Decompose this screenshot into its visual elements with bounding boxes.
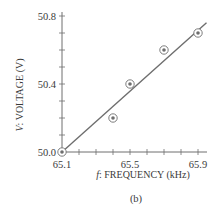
point-dot-icon bbox=[111, 116, 115, 120]
data-point bbox=[126, 80, 134, 88]
data-point bbox=[109, 114, 117, 122]
point-dot-icon bbox=[60, 150, 64, 154]
y-tick-label: 50.4 bbox=[38, 79, 57, 90]
y-axis-text: : VOLTAGE (V) bbox=[14, 58, 26, 125]
data-point bbox=[58, 148, 66, 156]
axes bbox=[62, 12, 207, 152]
fit-line-segment bbox=[62, 23, 207, 152]
x-axis-label: f: FREQUENCY (kHz) bbox=[96, 169, 190, 181]
y-tick-label: 50.0 bbox=[38, 147, 56, 158]
data-point bbox=[194, 29, 202, 37]
data-point bbox=[160, 46, 168, 54]
y-tick-label: 50.8 bbox=[38, 11, 56, 22]
tick-labels: 65.165.565.950.050.450.8 bbox=[38, 11, 208, 170]
point-dot-icon bbox=[196, 31, 200, 35]
fit-line bbox=[62, 23, 207, 152]
x-tick-label: 65.1 bbox=[53, 159, 71, 170]
x-tick-label: 65.9 bbox=[189, 159, 207, 170]
point-dot-icon bbox=[162, 48, 166, 52]
point-dot-icon bbox=[128, 82, 132, 86]
figure-caption: (b) bbox=[130, 193, 143, 205]
y-axis-label: V: VOLTAGE (V) bbox=[14, 58, 26, 131]
voltage-frequency-chart: 65.165.565.950.050.450.8 f: FREQUENCY (k… bbox=[0, 0, 219, 219]
x-axis-text: : FREQUENCY (kHz) bbox=[99, 169, 190, 181]
